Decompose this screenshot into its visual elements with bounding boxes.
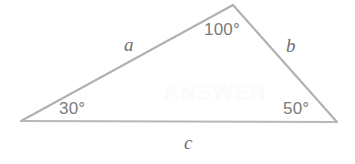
triangle-figure: ANSWER 100° 30° 50° a b c: [0, 0, 355, 164]
side-a-line: [21, 5, 233, 121]
angle-label-right: 50°: [283, 100, 309, 117]
side-label-a: a: [124, 35, 134, 54]
angle-label-left: 30°: [59, 100, 85, 117]
side-label-b: b: [286, 36, 296, 55]
side-c-line: [21, 121, 337, 122]
triangle-shape: [0, 0, 355, 164]
side-label-c: c: [184, 133, 192, 152]
angle-label-apex: 100°: [204, 21, 240, 38]
